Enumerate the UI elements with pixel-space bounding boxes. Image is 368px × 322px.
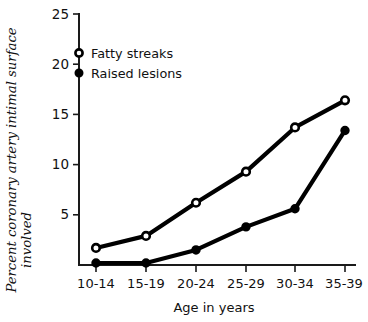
x-tick-label-25-29: 25-29 [227,276,265,291]
y-axis-tick-labels: 25 20 15 10 5 [52,6,69,222]
chart-figure: Percent coronary artery intimal surface … [0,0,368,322]
line-chart: Percent coronary artery intimal surface … [0,0,368,322]
x-axis-title: Age in years [173,300,254,315]
series-line-raised-lesions [96,130,345,263]
series-line-fatty-streaks [96,100,345,248]
x-tick-label-10-14: 10-14 [77,276,115,291]
legend-marker-open-circle-icon [75,49,82,56]
y-tick-label-15: 15 [52,106,69,122]
chart-legend: Fatty streaks Raised lesions [75,46,182,81]
data-point-raised-lesions-10-14 [92,259,99,266]
data-point-fatty-streaks-20-24 [192,199,200,207]
x-tick-label-15-19: 15-19 [127,276,165,291]
data-point-raised-lesions-25-29 [242,223,249,230]
legend-label-fatty-streaks: Fatty streaks [91,46,173,61]
legend-label-raised-lesions: Raised lesions [91,66,182,81]
data-point-raised-lesions-15-19 [142,259,149,266]
x-tick-label-30-34: 30-34 [276,276,314,291]
y-axis-title-line2: involved [19,212,34,268]
data-point-fatty-streaks-25-29 [242,168,250,176]
data-point-fatty-streaks-30-34 [291,124,299,132]
series-markers-raised-lesions [92,127,348,267]
x-tick-label-35-39: 35-39 [325,276,363,291]
x-tick-label-20-24: 20-24 [177,276,215,291]
y-tick-label-25: 25 [52,6,69,22]
y-tick-label-20: 20 [52,56,69,72]
x-axis-ticks [96,265,345,272]
data-point-raised-lesions-30-34 [291,205,298,212]
y-tick-label-5: 5 [60,206,69,222]
data-point-fatty-streaks-35-39 [341,97,349,105]
data-point-fatty-streaks-15-19 [142,232,150,240]
x-axis-tick-labels: 10-14 15-19 20-24 25-29 30-34 35-39 [77,276,363,291]
y-tick-label-10: 10 [52,156,69,172]
legend-marker-filled-circle-icon [76,70,83,77]
y-axis-title: Percent coronary artery intimal surface … [4,27,34,293]
data-point-raised-lesions-20-24 [192,246,199,253]
data-point-fatty-streaks-10-14 [92,244,100,252]
data-point-raised-lesions-35-39 [341,127,348,134]
y-axis-title-line1: Percent coronary artery intimal surface [4,27,19,293]
